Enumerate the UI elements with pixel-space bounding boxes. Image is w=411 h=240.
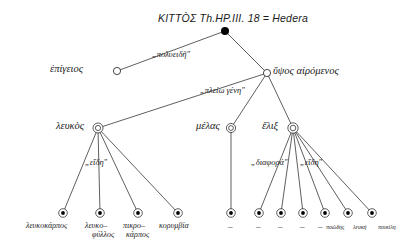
edge-leukos-leaf-2 <box>98 128 100 213</box>
edge-helix-leaf-2 <box>281 128 293 213</box>
node-epigeios[interactable] <box>113 67 120 74</box>
edge-helix-leaf-1 <box>259 128 293 213</box>
leaf-node[interactable] <box>227 209 236 218</box>
leaf-label: – <box>300 222 305 231</box>
leaf-label: λευκή <box>353 224 367 230</box>
node-label-hypsos: ὕψος αἰρόμενος <box>273 66 339 77</box>
edge-label-diaphora: „διαφορά" <box>251 158 288 167</box>
leaf-node[interactable] <box>299 209 308 218</box>
leaf-label: – <box>256 222 261 231</box>
leaf-node[interactable] <box>344 209 353 218</box>
edge-label-polyeide: „πολυειδῆ" <box>152 50 190 59</box>
leaf-node[interactable] <box>174 209 183 218</box>
leaf-node[interactable] <box>96 209 105 218</box>
leaf-label: – <box>278 222 283 231</box>
leaf-node[interactable] <box>277 209 286 218</box>
node-leukos[interactable] <box>93 123 103 133</box>
edge-leukos-leaf-3 <box>98 128 138 213</box>
leaf-label: ποικίλη <box>378 224 396 230</box>
node-melas[interactable] <box>226 123 235 132</box>
leaf-label: λευκοκάρπος <box>26 222 67 230</box>
edge-label-eide-left: „εἴδη" <box>85 158 107 167</box>
leaf-node[interactable] <box>321 209 330 218</box>
leaf-node[interactable] <box>134 209 143 218</box>
leaf-label: κορυμβία <box>159 222 189 230</box>
node-label-epigeios: ἐπίγειος <box>50 64 83 75</box>
edge-hypsos-leukos <box>98 73 267 128</box>
edge-leukos-leaf-4 <box>98 128 178 213</box>
leaf-node[interactable] <box>59 209 68 218</box>
leaf-label: φύλλος <box>92 231 114 239</box>
leaf-label: – <box>228 222 233 231</box>
edge-label-pleio-gene: „πλείω γένη" <box>200 86 245 95</box>
edge-helix-leaf-6 <box>293 128 372 213</box>
leaf-label: λευκο– <box>85 222 107 230</box>
node-hypsos[interactable] <box>263 69 270 76</box>
node-label-helix: ἕλιξ <box>262 121 278 132</box>
node-helix[interactable] <box>288 123 298 133</box>
node-root[interactable] <box>221 27 229 35</box>
leaf-label: κάρπος <box>126 231 149 239</box>
leaf-node[interactable] <box>368 209 377 218</box>
leaf-label: – <box>318 222 323 231</box>
edge-root-hypsos <box>225 31 267 73</box>
node-label-melas: μέλας <box>196 121 220 132</box>
figure-title: ΚΙΤΤÒΣ Th.HP.III. 18 = Hedera <box>158 13 308 24</box>
leaf-label: ποώδης <box>326 224 344 230</box>
edge-label-eide-right: „εἴδη" <box>300 158 322 167</box>
leaf-node[interactable] <box>255 209 264 218</box>
leaf-label: πικρο– <box>123 222 145 230</box>
node-label-leukos: λευκὸς <box>56 121 84 132</box>
edge-leukos-leaf-1 <box>63 128 98 213</box>
